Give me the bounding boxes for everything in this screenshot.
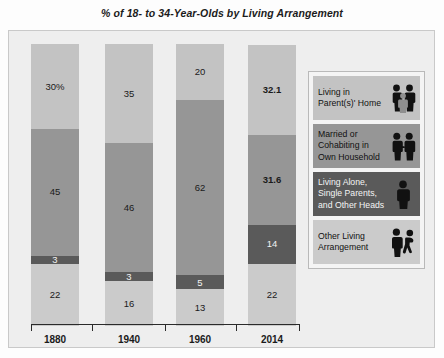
chart-legend: Living in Parent(s)' Home Married or Coh… — [308, 71, 425, 269]
x-axis-tick — [92, 324, 93, 331]
bar-segment[interactable]: 62 — [176, 100, 224, 275]
segment-value-label: 20 — [195, 67, 206, 77]
bar-segment[interactable]: 5 — [176, 275, 224, 289]
legend-item-label: Living in Parent(s)' Home — [318, 87, 389, 109]
segment-value-label: 35 — [124, 89, 135, 99]
plot-frame: 30%453223546316206251332.131.61422 Livin… — [8, 30, 435, 348]
x-axis-label-1940: 1940 — [99, 334, 159, 345]
legend-item-label: Married or Cohabiting in Own Household — [318, 129, 389, 162]
bar-segment[interactable]: 32.1 — [248, 45, 296, 136]
bar-segment[interactable]: 45 — [31, 129, 79, 256]
legend-item-1[interactable]: Living in Parent(s)' Home — [313, 76, 420, 120]
bar-segment[interactable]: 3 — [31, 256, 79, 264]
x-axis-tick — [165, 324, 166, 331]
x-axis-label-1880: 1880 — [25, 334, 85, 345]
x-axis-tick — [31, 324, 32, 331]
segment-value-label: 46 — [124, 203, 135, 213]
bar-segment[interactable]: 13 — [176, 289, 224, 326]
bar-segment[interactable]: 46 — [105, 143, 153, 273]
legend-item-2[interactable]: Married or Cohabiting in Own Household — [313, 124, 420, 168]
segment-value-label: 14 — [267, 239, 278, 249]
bar-segment[interactable]: 16 — [105, 281, 153, 326]
segment-value-label: 32.1 — [263, 85, 282, 95]
chart-container: % of 18- to 34-Year-Olds by Living Arran… — [0, 0, 444, 358]
segment-value-label: 22 — [267, 290, 278, 300]
segment-value-label: 31.6 — [263, 175, 282, 185]
segment-value-label: 5 — [197, 278, 202, 288]
legend-item-label: Other Living Arrangement — [318, 231, 389, 253]
page-title: % of 18- to 34-Year-Olds by Living Arran… — [0, 7, 444, 19]
bar-segment[interactable]: 20 — [176, 44, 224, 100]
x-axis-tick — [299, 324, 300, 331]
bar-1960[interactable]: 2062513 — [176, 44, 224, 326]
two-separate-people-icon — [389, 227, 417, 257]
bar-segment[interactable]: 30% — [31, 44, 79, 129]
couple-two-people-icon — [389, 131, 417, 161]
single-person-icon — [389, 179, 417, 209]
segment-value-label: 62 — [195, 183, 206, 193]
segment-value-label: 45 — [50, 187, 61, 197]
bar-2014[interactable]: 32.131.61422 — [248, 45, 296, 326]
legend-item-3[interactable]: Living Alone, Single Parents, and Other … — [313, 172, 420, 216]
bar-1940[interactable]: 3546316 — [105, 44, 153, 326]
bars-area: 30%453223546316206251332.131.61422 — [9, 31, 309, 349]
bar-1880[interactable]: 30%45322 — [31, 44, 79, 326]
bar-segment[interactable]: 31.6 — [248, 135, 296, 224]
family-three-people-icon — [389, 83, 417, 113]
legend-item-label: Living Alone, Single Parents, and Other … — [318, 177, 389, 210]
x-axis-label-2014: 2014 — [242, 334, 302, 345]
bar-segment[interactable]: 35 — [105, 44, 153, 143]
bar-segment[interactable]: 22 — [31, 264, 79, 326]
x-axis-label-1960: 1960 — [170, 334, 230, 345]
bar-segment[interactable]: 3 — [105, 272, 153, 280]
bar-segment[interactable]: 14 — [248, 225, 296, 264]
segment-value-label: 30% — [45, 82, 64, 92]
bar-segment[interactable]: 22 — [248, 264, 296, 326]
x-axis-tick — [236, 324, 237, 331]
segment-value-label: 22 — [50, 290, 61, 300]
legend-item-4[interactable]: Other Living Arrangement — [313, 220, 420, 264]
segment-value-label: 16 — [124, 299, 135, 309]
segment-value-label: 13 — [195, 303, 206, 313]
